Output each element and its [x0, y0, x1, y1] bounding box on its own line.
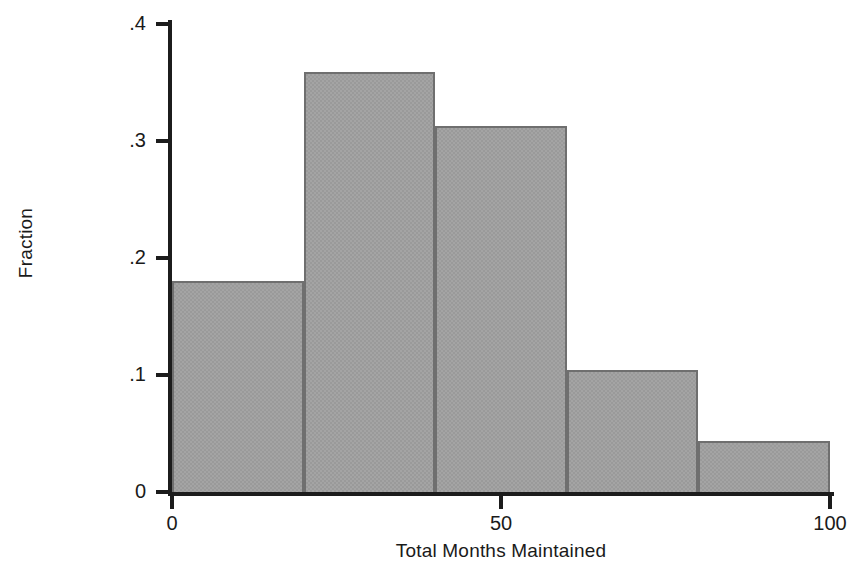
x-tick-label-0: 0: [132, 512, 212, 535]
y-tick-label-wrap-2: .2: [86, 246, 146, 247]
x-tick-label-1: 50: [461, 512, 541, 535]
x-tick-mark-1: [499, 496, 503, 509]
y-tick-label-1: .1: [86, 363, 146, 386]
histogram-figure: Fraction 0 .1 .2 .3 .4 0 50 100 Total Mo…: [0, 0, 865, 575]
y-tick-label-4: .4: [86, 12, 146, 35]
y-tick-label-wrap-1: .1: [86, 363, 146, 364]
histogram-bar-4: [698, 441, 830, 492]
plot-area: [172, 24, 830, 492]
y-tick-mark-1: [156, 373, 168, 377]
x-tick-mark-2: [828, 496, 832, 509]
y-tick-label-0: 0: [86, 480, 146, 503]
y-tick-mark-3: [156, 139, 168, 143]
y-tick-label-wrap-3: .3: [86, 129, 146, 130]
histogram-bar-1: [304, 72, 436, 492]
y-axis-title: Fraction: [15, 173, 37, 313]
histogram-bar-0: [172, 281, 304, 492]
y-tick-label-3: .3: [86, 129, 146, 152]
y-tick-mark-2: [156, 256, 168, 260]
y-tick-mark-4: [156, 22, 168, 26]
y-tick-label-wrap-0: 0: [86, 480, 146, 481]
x-axis-title: Total Months Maintained: [172, 540, 830, 562]
x-tick-mark-0: [170, 496, 174, 509]
histogram-bar-2: [435, 126, 567, 492]
x-tick-label-2: 100: [790, 512, 865, 535]
histogram-bar-3: [567, 370, 699, 492]
y-tick-label-wrap-4: .4: [86, 12, 146, 13]
y-tick-label-2: .2: [86, 246, 146, 269]
y-tick-mark-0: [156, 490, 168, 494]
